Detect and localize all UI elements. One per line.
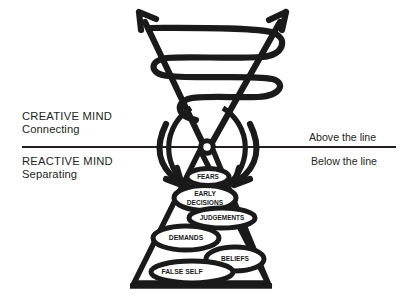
node-fears-label: FEARS bbox=[197, 173, 219, 180]
node-demands: DEMANDS bbox=[153, 226, 219, 250]
below-the-line-note: Below the line bbox=[311, 155, 377, 167]
node-demands-label: DEMANDS bbox=[169, 234, 204, 241]
hourglass-diagram-svg: FEARS EARLY DECISIONS JUDGEMENTS DEMANDS bbox=[0, 0, 415, 298]
creative-mind-subtitle: Connecting bbox=[22, 123, 112, 136]
node-fears: FEARS bbox=[187, 169, 229, 186]
node-beliefs-label: BELIEFS bbox=[221, 255, 249, 262]
reactive-mind-heading: REACTIVE MIND bbox=[22, 155, 113, 168]
diagram-canvas: FEARS EARLY DECISIONS JUDGEMENTS DEMANDS bbox=[0, 0, 415, 298]
creative-mind-label-block: CREATIVE MIND Connecting bbox=[22, 110, 112, 136]
node-decisions-label: DECISIONS bbox=[187, 199, 224, 206]
node-judgements-label: JUDGEMENTS bbox=[200, 214, 245, 221]
node-false-self: FALSE SELF bbox=[151, 261, 233, 283]
creative-mind-heading: CREATIVE MIND bbox=[22, 110, 112, 123]
node-ellipses-group: FEARS EARLY DECISIONS JUDGEMENTS DEMANDS bbox=[151, 169, 264, 284]
reactive-mind-label-block: REACTIVE MIND Separating bbox=[22, 155, 113, 181]
node-early-label: EARLY bbox=[194, 190, 216, 197]
upper-right-stem bbox=[209, 22, 280, 148]
node-false-self-label: FALSE SELF bbox=[161, 268, 202, 275]
serpentine-flow-path bbox=[150, 28, 282, 120]
above-the-line-note: Above the line bbox=[309, 131, 376, 143]
reactive-mind-subtitle: Separating bbox=[22, 168, 113, 181]
